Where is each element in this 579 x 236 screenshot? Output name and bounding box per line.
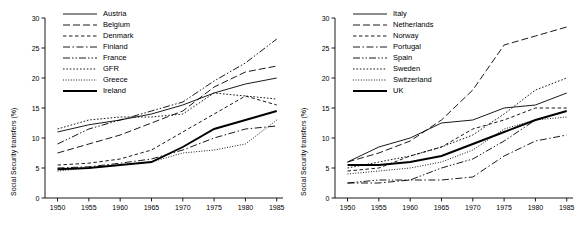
svg-text:10: 10 bbox=[322, 135, 330, 142]
legend-item: Netherlands bbox=[352, 19, 433, 30]
svg-text:1980: 1980 bbox=[238, 204, 254, 211]
svg-text:1950: 1950 bbox=[340, 204, 356, 211]
svg-text:1975: 1975 bbox=[496, 204, 512, 211]
svg-text:1975: 1975 bbox=[206, 204, 222, 211]
legend-left: AustriaBelgiumDenmarkFinlandFranceGFRGre… bbox=[62, 8, 133, 96]
legend-key-line bbox=[352, 20, 388, 30]
svg-text:1955: 1955 bbox=[371, 204, 387, 211]
svg-text:25: 25 bbox=[32, 45, 40, 52]
legend-label: Norway bbox=[393, 31, 418, 41]
legend-key-line bbox=[352, 31, 388, 41]
legend-key-line bbox=[62, 64, 98, 74]
legend-key-line bbox=[352, 9, 388, 19]
svg-text:30: 30 bbox=[322, 15, 330, 22]
legend-key-line bbox=[62, 75, 98, 85]
plot-area-right: 1950195519601965197019751980198505101520… bbox=[290, 0, 579, 236]
legend-label: Belgium bbox=[103, 20, 130, 30]
legend-item: Italy bbox=[352, 8, 433, 19]
legend-label: Ireland bbox=[103, 86, 126, 96]
legend-label: Denmark bbox=[103, 31, 133, 41]
plot-area-left: 1950195519601965197019751980198505101520… bbox=[0, 0, 289, 236]
legend-label: Sweden bbox=[393, 64, 420, 74]
legend-label: Austria bbox=[103, 9, 126, 19]
svg-text:1960: 1960 bbox=[112, 204, 128, 211]
svg-text:1955: 1955 bbox=[81, 204, 97, 211]
svg-text:15: 15 bbox=[32, 105, 40, 112]
legend-key-line bbox=[62, 86, 98, 96]
svg-text:20: 20 bbox=[322, 75, 330, 82]
svg-text:5: 5 bbox=[36, 165, 40, 172]
legend-key-line bbox=[62, 9, 98, 19]
legend-item: Norway bbox=[352, 30, 433, 41]
legend-label: UK bbox=[393, 86, 403, 96]
svg-text:15: 15 bbox=[322, 105, 330, 112]
series-line bbox=[58, 126, 277, 168]
legend-label: France bbox=[103, 53, 126, 63]
legend-label: GFR bbox=[103, 64, 119, 74]
svg-text:1985: 1985 bbox=[559, 204, 575, 211]
legend-item: Spain bbox=[352, 52, 433, 63]
legend-label: Portugal bbox=[393, 42, 421, 52]
figure-container: Social Security transfers (%) 1950195519… bbox=[0, 0, 579, 236]
legend-label: Netherlands bbox=[393, 20, 433, 30]
legend-item: Switzerland bbox=[352, 74, 433, 85]
legend-label: Switzerland bbox=[393, 75, 432, 85]
svg-text:1950: 1950 bbox=[50, 204, 66, 211]
legend-label: Italy bbox=[393, 9, 407, 19]
series-line bbox=[348, 93, 567, 162]
svg-text:5: 5 bbox=[326, 165, 330, 172]
legend-item: Finland bbox=[62, 41, 133, 52]
svg-text:1960: 1960 bbox=[402, 204, 418, 211]
legend-item: Austria bbox=[62, 8, 133, 19]
svg-text:1970: 1970 bbox=[465, 204, 481, 211]
chart-panel-right: Social Security transfers (%) 1950195519… bbox=[290, 0, 579, 236]
legend-key-line bbox=[62, 42, 98, 52]
legend-key-line bbox=[352, 42, 388, 52]
legend-key-line bbox=[352, 86, 388, 96]
legend-label: Greece bbox=[103, 75, 128, 85]
svg-text:1965: 1965 bbox=[144, 204, 160, 211]
series-line bbox=[348, 135, 567, 183]
legend-item: Belgium bbox=[62, 19, 133, 30]
legend-item: UK bbox=[352, 85, 433, 96]
legend-key-line bbox=[352, 75, 388, 85]
legend-item: GFR bbox=[62, 63, 133, 74]
svg-text:0: 0 bbox=[36, 195, 40, 202]
legend-key-line bbox=[62, 31, 98, 41]
svg-text:1970: 1970 bbox=[175, 204, 191, 211]
legend-item: Portugal bbox=[352, 41, 433, 52]
legend-item: Ireland bbox=[62, 85, 133, 96]
legend-label: Spain bbox=[393, 53, 412, 63]
series-line bbox=[58, 93, 277, 129]
svg-text:30: 30 bbox=[32, 15, 40, 22]
svg-text:25: 25 bbox=[322, 45, 330, 52]
legend-key-line bbox=[62, 20, 98, 30]
legend-label: Finland bbox=[103, 42, 128, 52]
legend-item: Greece bbox=[62, 74, 133, 85]
svg-text:1980: 1980 bbox=[528, 204, 544, 211]
svg-text:0: 0 bbox=[326, 195, 330, 202]
legend-item: France bbox=[62, 52, 133, 63]
legend-key-line bbox=[352, 53, 388, 63]
svg-text:1965: 1965 bbox=[434, 204, 450, 211]
chart-panel-left: Social Security transfers (%) 1950195519… bbox=[0, 0, 289, 236]
series-line bbox=[348, 108, 567, 171]
legend-item: Denmark bbox=[62, 30, 133, 41]
legend-right: ItalyNetherlandsNorwayPortugalSpainSwede… bbox=[352, 8, 433, 96]
svg-text:20: 20 bbox=[32, 75, 40, 82]
legend-key-line bbox=[352, 64, 388, 74]
legend-key-line bbox=[62, 53, 98, 63]
svg-text:1985: 1985 bbox=[269, 204, 285, 211]
svg-text:10: 10 bbox=[32, 135, 40, 142]
legend-item: Sweden bbox=[352, 63, 433, 74]
